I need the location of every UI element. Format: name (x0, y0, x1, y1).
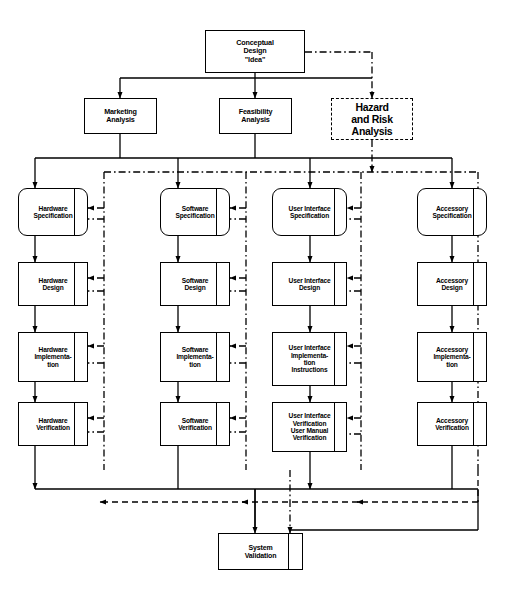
node-feasibility-analysis-label: Feasibility Analysis (220, 108, 291, 124)
node-tab-divider (216, 189, 217, 235)
node-accessory-verification[interactable]: Accessory Verification (417, 402, 487, 446)
node-hardware-verification-label: Hardware Verification (19, 417, 87, 432)
node-accessory-implementation[interactable]: Accessory Implementa- tion (417, 332, 487, 382)
node-software-specification[interactable]: Software Specification (160, 188, 230, 236)
node-accessory-verification-label: Accessory Verification (418, 417, 486, 432)
node-ui-design[interactable]: User Interface Design (272, 262, 347, 306)
node-tab-divider (216, 333, 217, 381)
node-ui-verification[interactable]: User Interface Verification User Manual … (272, 402, 347, 452)
node-software-verification[interactable]: Software Verification (160, 402, 230, 446)
node-software-specification-label: Software Specification (161, 205, 229, 220)
node-tab-divider (334, 403, 335, 451)
node-hardware-specification[interactable]: Hardware Specification (18, 188, 88, 236)
node-conceptual-design[interactable]: Conceptual Design "Idea" (205, 30, 305, 73)
node-tab-divider (473, 189, 474, 235)
node-accessory-specification[interactable]: Accessory Specification (417, 188, 487, 236)
node-accessory-specification-label: Accessory Specification (418, 205, 486, 220)
node-hardware-verification[interactable]: Hardware Verification (18, 402, 88, 446)
node-ui-implementation[interactable]: User Interface Implementa- tion Instruct… (272, 332, 347, 386)
node-tab-divider (334, 263, 335, 305)
node-hardware-implementation-label: Hardware Implementa- tion (19, 346, 87, 368)
node-hazard-and-risk-analysis-label: Hazard and Risk Analysis (332, 101, 412, 138)
node-software-design-label: Software Design (161, 277, 229, 292)
flowchart-canvas: Conceptual Design "Idea" Marketing Analy… (0, 0, 510, 590)
node-system-validation-label: System Validation (219, 544, 302, 560)
node-hardware-design[interactable]: Hardware Design (18, 262, 88, 306)
node-marketing-analysis[interactable]: Marketing Analysis (84, 98, 157, 134)
node-ui-implementation-label: User Interface Implementa- tion Instruct… (273, 344, 346, 374)
node-tab-divider (334, 333, 335, 385)
node-hardware-design-label: Hardware Design (19, 277, 87, 292)
node-tab-divider (74, 263, 75, 305)
node-tab-divider (473, 263, 474, 305)
node-feasibility-analysis[interactable]: Feasibility Analysis (219, 98, 292, 134)
node-hazard-and-risk-analysis[interactable]: Hazard and Risk Analysis (331, 98, 413, 140)
node-tab-divider (473, 333, 474, 381)
node-software-implementation[interactable]: Software Implementa- tion (160, 332, 230, 382)
node-ui-design-label: User Interface Design (273, 277, 346, 292)
node-software-verification-label: Software Verification (161, 417, 229, 432)
node-ui-specification-label: User Interface Specification (273, 205, 346, 220)
node-conceptual-design-label: Conceptual Design "Idea" (206, 39, 304, 63)
node-software-implementation-label: Software Implementa- tion (161, 346, 229, 368)
node-tab-divider (216, 263, 217, 305)
node-hardware-specification-label: Hardware Specification (19, 205, 87, 220)
node-tab-divider (473, 403, 474, 445)
node-accessory-design-label: Accessory Design (418, 277, 486, 292)
node-accessory-design[interactable]: Accessory Design (417, 262, 487, 306)
node-system-validation[interactable]: System Validation (218, 533, 303, 570)
node-tab-divider (216, 403, 217, 445)
node-marketing-analysis-label: Marketing Analysis (85, 108, 156, 124)
node-tab-divider (74, 189, 75, 235)
node-software-design[interactable]: Software Design (160, 262, 230, 306)
node-ui-specification[interactable]: User Interface Specification (272, 188, 347, 236)
node-tab-divider (74, 333, 75, 381)
node-tab-divider (288, 534, 289, 569)
node-ui-verification-label: User Interface Verification User Manual … (273, 412, 346, 442)
node-accessory-implementation-label: Accessory Implementa- tion (418, 346, 486, 368)
node-tab-divider (74, 403, 75, 445)
node-hardware-implementation[interactable]: Hardware Implementa- tion (18, 332, 88, 382)
node-tab-divider (334, 189, 335, 235)
